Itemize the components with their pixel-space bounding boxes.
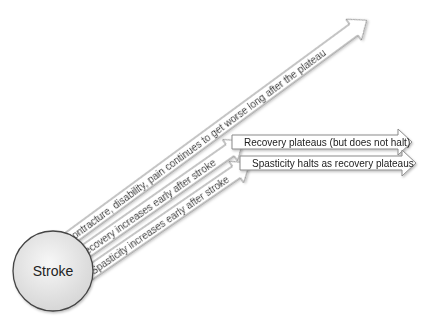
arrow-recovery-early: Recovery increases early after stroke (69, 130, 251, 268)
arrow-spasticity-halts: Spasticity halts as recovery plateaus (240, 150, 416, 176)
arrow-recovery-plateau: Recovery plateaus (but does not halt) (232, 129, 412, 155)
stroke-node-label: Stroke (33, 263, 74, 279)
arrow-label-spasticity-early: Spasticity increases early after stroke (88, 173, 231, 276)
arrow-label-spasticity-halts: Spasticity halts as recovery plateaus (252, 158, 414, 169)
stroke-node: Stroke (13, 231, 93, 311)
arrow-contracture: Contracture, disability, pain continues … (54, 10, 374, 255)
stroke-diagram: Contracture, disability, pain continues … (0, 0, 442, 318)
arrow-label-recovery-plateau: Recovery plateaus (but does not halt) (244, 137, 410, 148)
